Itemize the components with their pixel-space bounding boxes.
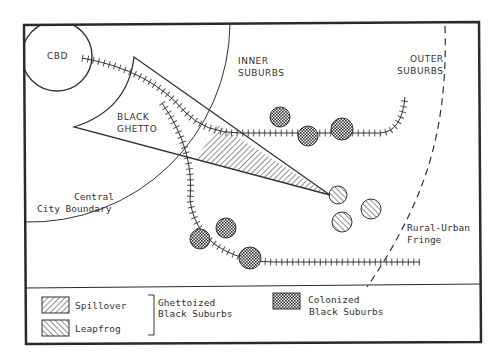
colonized-suburb [239,247,261,269]
colonized-suburb [216,218,236,238]
label-central-city-2: City Boundary [37,203,112,214]
label-rural-urban-fringe-2: Fringe [407,234,442,245]
label-outer-suburbs: OUTER [410,54,444,64]
legend-swatch-leapfrog [42,320,69,336]
leapfrog-suburb [329,186,347,204]
label-cbd: CBD [47,51,68,61]
leapfrog-suburb [361,199,381,219]
legend-bracket [148,295,154,335]
legend-divider [25,284,480,288]
colonized-suburb [298,126,318,146]
label-black-ghetto-2: GHETTO [117,124,157,134]
legend-label-colonized: Colonized [308,294,359,305]
label-black-ghetto: BLACK [117,112,150,122]
map-area: CBD INNER SUBURBS OUTER SUBURBS BLACK GH… [22,21,470,290]
legend: Spillover Leapfrog Ghettoized Black Subu… [42,293,383,336]
leapfrog-suburb [332,212,352,232]
legend-label-spillover: Spillover [75,300,127,311]
legend-label-ghettoized: Ghettoized [158,297,215,308]
legend-label-colonized-2: Black Suburbs [309,306,383,317]
legend-label-ghettoized-2: Black Suburbs [158,308,232,319]
suburbanization-diagram: CBD INNER SUBURBS OUTER SUBURBS BLACK GH… [0,0,504,362]
colonized-suburb [190,229,210,249]
label-rural-urban-fringe: Rural-Urban [407,222,470,233]
legend-label-leapfrog: Leapfrog [75,323,121,334]
colonized-suburb [270,107,290,127]
legend-swatch-colonized [273,293,300,309]
label-inner-suburbs: INNER [238,56,269,66]
legend-swatch-spillover [42,297,69,313]
label-inner-suburbs-2: SUBURBS [238,68,285,78]
label-central-city: Central [74,191,114,202]
label-outer-suburbs-2: SUBURBS [397,66,444,76]
colonized-suburb [331,118,353,140]
